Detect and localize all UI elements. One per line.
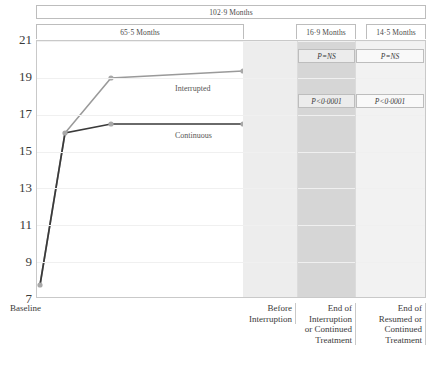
header-segment-1: 65·5 Months: [36, 24, 244, 39]
x-label-baseline: Baseline: [10, 303, 90, 314]
band-transition-light: [243, 41, 297, 297]
gridline-21: [37, 41, 425, 42]
gridline-17: [37, 115, 425, 116]
y-tick-15: 15: [2, 144, 32, 157]
y-tick-19: 19: [2, 70, 32, 83]
series-continuous-path: [40, 124, 243, 285]
x-label-end-interruption-line1: End of: [297, 303, 352, 314]
pvalue-box-interrupted-interruption: P=NS: [298, 49, 355, 63]
series-interrupted-path: [40, 71, 243, 285]
gridline-15: [37, 152, 425, 153]
band-resumed-light: [355, 41, 425, 297]
header-segment-3: 14·5 Months: [366, 24, 426, 39]
header-total-label: 102·9 Months: [209, 8, 253, 17]
x-label-before-interruption: Before Interruption: [180, 303, 296, 324]
y-tick-21: 21: [2, 33, 32, 46]
x-label-before-interruption-line1: Before: [180, 303, 292, 314]
x-label-end-resumed: End of Resumed or Continued Treatment: [362, 303, 426, 345]
series-label-continuous: Continuous: [175, 131, 212, 140]
gridline-19: [37, 78, 425, 79]
x-label-end-resumed-line1: End of: [362, 303, 422, 314]
x-label-end-resumed-line2: Resumed or: [362, 314, 422, 325]
x-label-end-interruption-line4: Treatment: [297, 335, 352, 346]
header-segment-2: 16·9 Months: [296, 24, 356, 39]
series-label-interrupted: Interrupted: [175, 84, 211, 93]
pvalue-continuous-interruption-text: P<0·0001: [311, 97, 341, 106]
y-tick-13: 13: [2, 181, 32, 194]
marker-continuous-early: [108, 121, 113, 126]
pvalue-box-continuous-interruption: P<0·0001: [298, 94, 355, 108]
header-total-duration: 102·9 Months: [36, 5, 426, 19]
band-interruption-dark: [297, 41, 355, 297]
x-label-end-interruption-line2: Interruption: [297, 314, 352, 325]
marker-mid: [62, 130, 67, 135]
y-tick-17: 17: [2, 107, 32, 120]
panel-separator-1: [297, 41, 298, 297]
pvalue-continuous-resumed-text: P<0·0001: [375, 97, 405, 106]
y-tick-9: 9: [2, 255, 32, 268]
panel-separator-2: [355, 41, 356, 297]
pvalue-interrupted-interruption-text: P=NS: [317, 52, 335, 61]
pvalue-interrupted-resumed-text: P=NS: [381, 52, 399, 61]
pvalue-box-interrupted-resumed: P=NS: [356, 49, 424, 63]
x-label-end-interruption-line3: or Continued: [297, 324, 352, 335]
header-segment-2-label: 16·9 Months: [306, 28, 346, 37]
x-label-before-interruption-line2: Interruption: [180, 314, 292, 325]
marker-baseline: [37, 282, 42, 287]
gridline-13: [37, 188, 425, 189]
x-label-end-interruption: End of Interruption or Continued Treatme…: [297, 303, 356, 345]
plot-area: Interrupted Continuous P=NS P=NS P<0·000…: [36, 40, 426, 298]
header-segment-3-label: 14·5 Months: [376, 28, 416, 37]
chart-figure: 102·9 Months 65·5 Months 16·9 Months 14·…: [0, 0, 427, 365]
pvalue-box-continuous-resumed: P<0·0001: [356, 94, 424, 108]
header-segment-1-label: 65·5 Months: [120, 28, 160, 37]
gridline-11: [37, 225, 425, 226]
x-label-end-resumed-line4: Treatment: [362, 335, 422, 346]
x-label-baseline-text: Baseline: [10, 303, 90, 314]
gridline-9: [37, 262, 425, 263]
x-label-end-resumed-line3: Continued: [362, 324, 422, 335]
y-axis: 21 19 17 15 13 11 9 7: [0, 0, 32, 340]
y-tick-11: 11: [2, 218, 32, 231]
